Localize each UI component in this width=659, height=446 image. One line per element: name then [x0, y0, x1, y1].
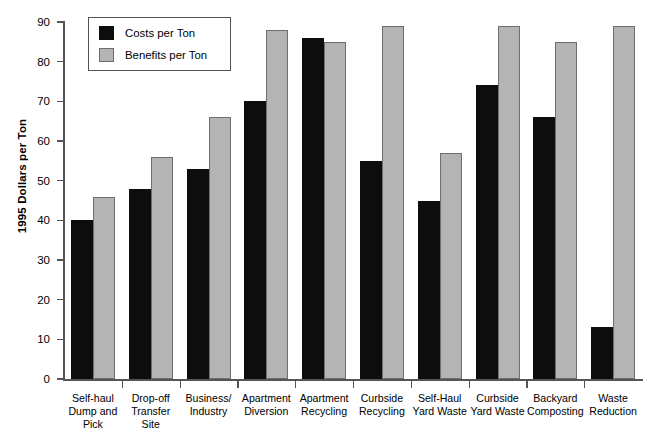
bar-benefits-8: [555, 42, 577, 379]
y-tick-90: [57, 21, 64, 23]
y-tick-20: [57, 299, 64, 301]
bar-benefits-1: [151, 157, 173, 379]
bar-costs-6: [418, 201, 440, 380]
x-axis-label-1: Drop-off Transfer Site: [122, 392, 180, 432]
x-axis-separator-2: [180, 380, 181, 388]
x-axis-label-0: Self-haul Dump and Pick: [64, 392, 122, 432]
x-axis-separator-7: [469, 380, 470, 388]
y-tick-10: [57, 339, 64, 341]
y-tick-30: [57, 259, 64, 261]
bar-costs-3: [244, 101, 266, 379]
x-axis-label-5: Curbside Recycling: [353, 392, 411, 418]
y-tick-0: [57, 378, 64, 380]
y-tick-70: [57, 101, 64, 103]
y-tick-label-60: 60: [0, 135, 50, 147]
bar-benefits-7: [498, 26, 520, 379]
y-tick-label-70: 70: [0, 95, 50, 107]
y-tick-label-20: 20: [0, 294, 50, 306]
y-tick-label-90: 90: [0, 16, 50, 28]
x-axis-label-9: Waste Reduction: [584, 392, 642, 418]
y-tick-label-10: 10: [0, 333, 50, 345]
x-axis-label-6: Self-Haul Yard Waste: [411, 392, 469, 418]
legend-label-benefits: Benefits per Ton: [125, 49, 207, 61]
bar-benefits-2: [209, 117, 231, 379]
bar-benefits-3: [266, 30, 288, 379]
y-tick-label-50: 50: [0, 175, 50, 187]
x-axis-label-7: Curbside Yard Waste: [469, 392, 527, 418]
y-tick-label-40: 40: [0, 214, 50, 226]
x-axis-separator-8: [526, 380, 527, 388]
plot-area: [64, 22, 642, 379]
y-tick-label-0: 0: [0, 373, 50, 385]
legend-label-costs: Costs per Ton: [125, 27, 195, 39]
legend-swatch-benefits-icon: [99, 48, 114, 62]
x-axis-separator-1: [122, 380, 123, 388]
x-axis-separator-6: [411, 380, 412, 388]
bar-benefits-9: [613, 26, 635, 379]
bar-costs-4: [302, 38, 324, 379]
y-tick-label-30: 30: [0, 254, 50, 266]
x-axis-separator-9: [584, 380, 585, 388]
y-tick-50: [57, 180, 64, 182]
bar-benefits-4: [324, 42, 346, 379]
bar-costs-9: [591, 327, 613, 379]
x-axis-separator-5: [353, 380, 354, 388]
bar-costs-5: [360, 161, 382, 379]
x-axis-label-8: Backyard Composting: [526, 392, 584, 418]
bar-chart: 1995 Dollars per Ton 9080706050403020100…: [0, 0, 659, 446]
bar-benefits-6: [440, 153, 462, 379]
bar-benefits-5: [382, 26, 404, 379]
bar-costs-1: [129, 189, 151, 379]
bar-benefits-0: [93, 197, 115, 379]
x-axis-label-3: Apartment Diversion: [237, 392, 295, 418]
y-tick-label-80: 80: [0, 56, 50, 68]
bar-costs-0: [71, 220, 93, 379]
y-tick-40: [57, 220, 64, 222]
bar-costs-2: [187, 169, 209, 379]
x-axis-separator-3: [237, 380, 238, 388]
legend-item-costs: Costs per Ton: [99, 23, 195, 43]
y-tick-60: [57, 140, 64, 142]
chart-legend: Costs per Ton Benefits per Ton: [88, 17, 231, 71]
x-axis-separator-4: [295, 380, 296, 388]
legend-item-benefits: Benefits per Ton: [99, 45, 207, 65]
y-tick-80: [57, 61, 64, 63]
bar-costs-8: [533, 117, 555, 379]
bar-costs-7: [476, 85, 498, 379]
x-axis-label-4: Apartment Recycling: [295, 392, 353, 418]
legend-swatch-costs-icon: [99, 26, 114, 40]
x-axis-label-2: Business/ Industry: [180, 392, 238, 418]
